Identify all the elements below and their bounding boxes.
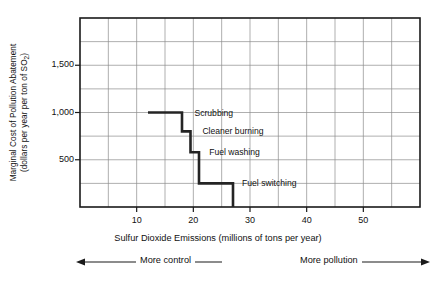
- y-tick-label: 1,000: [34, 107, 74, 117]
- direction-arrows: [76, 259, 430, 266]
- more-control-arrow-head: [76, 259, 85, 266]
- curve-annotation-label: Cleaner burning: [202, 126, 263, 136]
- x-tick-label: 20: [173, 215, 213, 225]
- y-tick-label: 1,500: [34, 59, 74, 69]
- x-axis-title: Sulfur Dioxide Emissions (millions of to…: [0, 233, 436, 243]
- x-tick-label: 10: [117, 215, 157, 225]
- y-tick-label: 500: [34, 154, 74, 164]
- more-pollution-arrow-head: [421, 259, 430, 266]
- curve-annotation-label: Fuel switching: [242, 178, 296, 188]
- x-tick-label: 30: [230, 215, 270, 225]
- axis-ticks: [75, 65, 363, 212]
- direction-note-more-control: More control: [136, 255, 195, 265]
- chart-figure: Marginal Cost of Pollution Abatement (do…: [0, 0, 436, 282]
- curve-annotation-label: Scrubbing: [194, 108, 233, 118]
- x-tick-label: 50: [343, 215, 383, 225]
- direction-note-more-pollution: More pollution: [296, 255, 362, 265]
- x-tick-label: 40: [287, 215, 327, 225]
- curve-annotation-label: Fuel washing: [209, 147, 260, 157]
